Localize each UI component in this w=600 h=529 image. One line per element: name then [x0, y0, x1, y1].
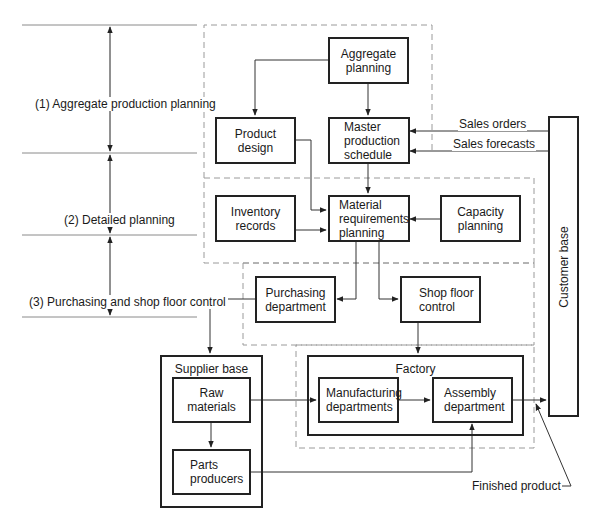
container-title: Factory — [309, 362, 522, 376]
node-parts-producers[interactable]: Parts producers — [172, 449, 251, 495]
node-label: Parts producers — [190, 458, 243, 486]
node-capacity-planning[interactable]: Capacity planning — [440, 195, 521, 242]
phase-label-purchasing: (3) Purchasing and shop floor control — [27, 295, 228, 309]
flow-label-finished-product: Finished product — [471, 479, 562, 493]
production-planning-diagram: (1) Aggregate production planning (2) De… — [0, 0, 600, 529]
node-aggregate-planning[interactable]: Aggregate planning — [328, 37, 409, 84]
node-label: Raw materials — [174, 386, 249, 414]
node-shop-floor-control[interactable]: Shop floor control — [400, 276, 481, 323]
node-inventory-records[interactable]: Inventory records — [215, 195, 296, 242]
container-title: Supplier base — [162, 362, 261, 376]
node-label: Aggregate planning — [341, 47, 396, 75]
connector-layer — [0, 0, 600, 529]
node-purchasing-department[interactable]: Purchasing department — [255, 276, 336, 323]
flow-label-sales-forecasts: Sales forecasts — [452, 137, 536, 151]
node-label: Assembly department — [444, 386, 505, 414]
node-material-requirements-planning[interactable]: Material requirements planning — [328, 195, 410, 242]
node-manufacturing-departments[interactable]: Manufacturing departments — [318, 377, 399, 423]
node-label: Product design — [235, 127, 276, 155]
node-product-design[interactable]: Product design — [215, 117, 296, 164]
node-label: Material requirements planning — [339, 198, 409, 240]
node-label: Inventory records — [231, 205, 280, 233]
node-label: Manufacturing departments — [326, 386, 402, 414]
phase-label-detailed: (2) Detailed planning — [62, 213, 177, 227]
node-label: Master production schedule — [344, 120, 400, 162]
customer-base-label: Customer base — [557, 226, 571, 307]
node-master-production-schedule[interactable]: Master production schedule — [328, 117, 410, 164]
node-label: Capacity planning — [457, 205, 504, 233]
node-assembly-department[interactable]: Assembly department — [432, 377, 513, 423]
phase-separators — [22, 25, 197, 317]
node-label: Shop floor control — [419, 286, 474, 314]
phase-label-aggregate: (1) Aggregate production planning — [33, 97, 218, 111]
node-label: Purchasing department — [265, 286, 326, 314]
flow-label-sales-orders: Sales orders — [458, 117, 527, 131]
container-customer-base[interactable]: Customer base — [548, 116, 579, 417]
node-raw-materials[interactable]: Raw materials — [172, 377, 251, 423]
